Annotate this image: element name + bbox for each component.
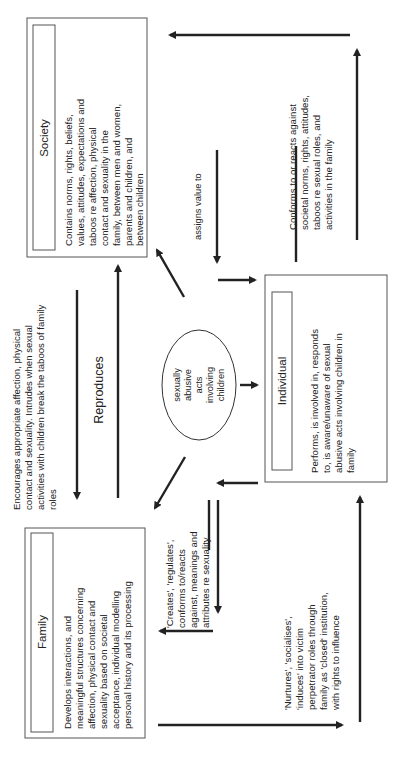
society-family-label-1: Encourages appropriate affection, physic… [11,329,22,510]
society-desc-5: family, between men and women, [111,104,122,246]
family-title: Family [36,615,48,649]
individual-desc-1: Performs, is involved in, responds [309,329,320,473]
individual-title: Individual [276,357,288,406]
family-desc-4: sexuality based on societal [98,614,109,729]
society-desc-4: contact and sexuality in the [99,130,110,246]
creates-label-1: 'Creates', 'regulates', [164,540,175,628]
family-desc-5: acceptance, individual modelling [110,591,121,729]
individual-desc-2: to, is aware/unaware of sexual [321,343,332,473]
society-family-label-2: contact and sexuality. Intrudes when sex… [23,325,34,510]
society-node: Society Contains norms, rights, beliefs,… [27,18,147,257]
society-desc-1: Contains norms, rights, beliefs, [63,114,74,246]
arrow-center-to-family [155,457,185,508]
center-line-4: involving [205,367,215,403]
family-desc-3: affection, physical contact and [86,601,97,729]
individual-desc-4: family [345,448,356,473]
nurtures-label-3: perpetrator roles through [306,604,317,710]
creates-label-4: attributes re sexuality [200,537,211,628]
family-desc-6: personal history and its processing [122,581,133,729]
society-desc-2: values, attitudes, expectations and [75,99,86,246]
center-node: sexually abusive acts involving children [162,330,236,440]
society-family-label-4: roles [47,489,58,510]
center-line-1: sexually [172,368,182,402]
reproduces-label: Reproduces [92,356,106,423]
nurtures-label-5: with rights to influence [330,615,341,711]
arrow-center-to-society [157,250,184,297]
nurtures-label-1: 'Nurtures', 'socialises', [282,616,293,710]
assigns-value-label: assigns value to [193,173,203,240]
family-node: Family Develops interactions, and meanin… [25,528,145,738]
society-desc-3: taboos re affection, physical [87,127,98,246]
center-line-3: acts [194,376,204,393]
society-title: Society [38,119,50,157]
society-family-label-3: activities with children break the taboo… [35,305,46,510]
conforms-label-2: societal norms, rights, attitudes, [299,95,310,230]
center-line-2: abusive [183,369,193,401]
individual-node: Individual Performs, is involved in, res… [265,275,387,482]
conforms-label-3: taboos re sexual roles, and [311,115,322,230]
family-desc-1: Develops interactions, and [62,616,73,729]
family-desc-2: meaningful structures concerning [74,588,85,729]
diagram-canvas: Society Contains norms, rights, beliefs,… [0,0,399,768]
creates-label-3: against, meanings and [188,531,199,628]
conforms-label-1: Conforms to or reacts against [287,104,298,230]
nurtures-label-2: 'induces' into victim [294,628,305,710]
conforms-label-4: activities in the family [323,139,334,230]
individual-desc-3: abusive acts involving children in [333,333,344,473]
nurtures-label-4: family as 'closed' institution, [318,592,329,710]
society-desc-7: between children [134,173,145,246]
society-desc-6: parents and children, and [123,138,134,246]
creates-label-2: conforms to/reacts [176,549,187,628]
center-line-5: children [216,369,226,402]
